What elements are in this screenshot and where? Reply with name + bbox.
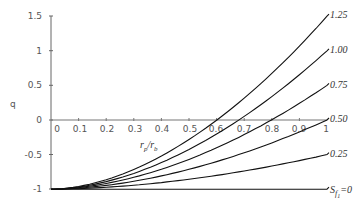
y-tick-label: 0.5 [28,80,42,90]
x-tick-label: 0 [54,124,60,134]
curve-labels: 1.25 1.00 0.75 0.50 0.25 Sf1=0 [330,9,352,199]
x-tick-label: 0.2 [100,124,114,134]
y-axis-label: q [10,99,16,109]
curve-label: 1.25 [330,9,348,20]
curve-label: 1.00 [330,44,348,55]
y-tick-label: -1 [33,184,42,194]
y-tick-label: 1.5 [28,11,42,21]
curve-0.75 [51,83,329,189]
curve-label: 0.25 [330,148,348,159]
chart: 1.5 1 0.5 0 -0.5 -1 q 0 0.1 0.2 0.3 0.4 … [0,0,364,209]
x-tick-labels: 0 0.1 0.2 0.3 0.4 0.5 0.6 0.7 0.8 0.9 1 [54,124,329,134]
y-tick-label: 1 [36,46,42,56]
y-tick-label: -0.5 [24,150,42,160]
baseline-label: Sf1=0 [330,184,352,199]
y-ticks: 1.5 1 0.5 0 -0.5 -1 [24,11,53,194]
curve-label: 0.75 [330,79,348,90]
x-tick-label: 0.1 [73,124,87,134]
curve-label: 0.50 [330,113,348,124]
curves [51,14,329,189]
x-tick-label: 0.3 [128,124,142,134]
y-tick-label: 0 [36,115,42,125]
x-tick-label: 1 [323,124,329,134]
x-tick-label: 0.6 [209,124,224,134]
x-tick-label: 0.5 [183,124,197,134]
x-tick-label: 0.4 [155,124,170,134]
curve-1.00 [51,49,329,189]
x-axis-label: rp/rb [140,139,158,153]
x-tick-label: 0.8 [265,124,280,134]
